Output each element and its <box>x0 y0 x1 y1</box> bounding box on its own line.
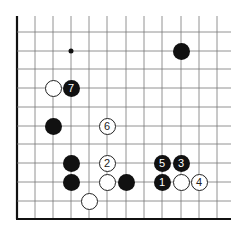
go-board: 7625314 <box>0 0 248 232</box>
black-stone <box>63 155 80 172</box>
black-stone <box>118 174 135 191</box>
white-stone <box>173 174 190 191</box>
white-stone <box>45 80 62 97</box>
board-grid <box>0 0 248 232</box>
black-stone <box>63 174 80 191</box>
move-number: 1 <box>159 177 165 188</box>
move-number: 6 <box>104 121 110 132</box>
black-stone <box>45 118 62 135</box>
white-stone <box>81 193 98 210</box>
move-number: 3 <box>178 158 184 169</box>
white-stone-move-2: 2 <box>99 155 116 172</box>
white-stone <box>99 174 116 191</box>
white-stone-move-6: 6 <box>99 118 116 135</box>
black-stone-move-1: 1 <box>154 174 171 191</box>
black-stone <box>173 43 190 60</box>
hoshi-point <box>69 49 74 54</box>
black-stone-move-7: 7 <box>63 80 80 97</box>
move-number: 7 <box>68 83 74 94</box>
white-stone-move-4: 4 <box>191 174 208 191</box>
move-number: 2 <box>104 158 110 169</box>
move-number: 5 <box>159 158 165 169</box>
black-stone-move-5: 5 <box>154 155 171 172</box>
black-stone-move-3: 3 <box>173 155 190 172</box>
move-number: 4 <box>196 177 202 188</box>
